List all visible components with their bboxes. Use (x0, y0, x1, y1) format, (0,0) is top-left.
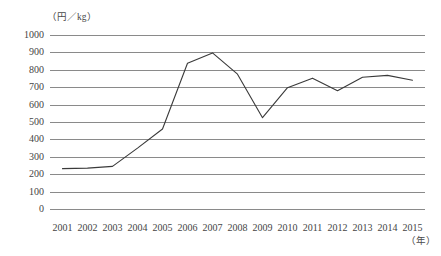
line-chart-figure: （円／kg） 01002003004005006007008009001000 … (0, 0, 441, 256)
y-axis-tick-labels: 01002003004005006007008009001000 (0, 35, 44, 209)
y-axis-tick-label: 300 (4, 152, 44, 162)
x-axis-tick-label: 2015 (398, 222, 428, 234)
y-axis-tick-label: 600 (4, 100, 44, 110)
y-axis-tick-label: 100 (4, 187, 44, 197)
y-axis-tick-label: 1000 (4, 30, 44, 40)
y-axis-tick-label: 400 (4, 134, 44, 144)
y-axis-tick-label: 0 (4, 204, 44, 214)
series-polyline (63, 53, 413, 169)
y-axis-tick-label: 900 (4, 47, 44, 57)
plot-area (50, 35, 425, 209)
x-axis-tick-labels: 2001200220032004200520062007200820092010… (50, 222, 425, 236)
y-axis-unit-label: （円／kg） (47, 12, 97, 23)
figure-title (0, 0, 441, 9)
y-axis-tick-label: 200 (4, 169, 44, 179)
y-axis-tick-label: 700 (4, 82, 44, 92)
y-axis-tick-label: 500 (4, 117, 44, 127)
gridline (50, 209, 425, 210)
y-axis-tick-label: 800 (4, 65, 44, 75)
x-axis-unit-label: （年） (406, 236, 436, 247)
data-series-line (50, 35, 425, 209)
